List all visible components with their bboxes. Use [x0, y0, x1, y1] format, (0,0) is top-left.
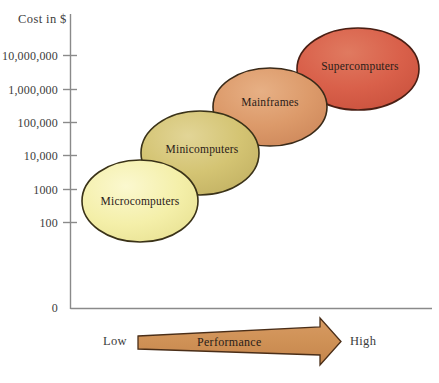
- chart-graphics: [0, 0, 439, 383]
- y-tick-label-1000: 1000: [0, 183, 58, 198]
- y-tick-label-10000000: 10,000,000: [0, 49, 58, 64]
- bubble-label-supercomputers: Supercomputers: [300, 60, 420, 72]
- y-tick-label-10000: 10,000: [0, 149, 58, 164]
- y-tick-label-100: 100: [0, 216, 58, 231]
- bubble-label-mainframes: Mainframes: [214, 96, 326, 108]
- x-axis-performance-label: Performance: [197, 335, 262, 350]
- y-tick-label-100000: 100,000: [0, 116, 58, 131]
- bubble-label-minicomputers: Minicomputers: [144, 143, 260, 155]
- x-axis-high-label: High: [350, 334, 376, 349]
- y-tick-label-0: 0: [0, 301, 58, 316]
- y-tick-label-1000000: 1,000,000: [0, 83, 58, 98]
- cost-performance-chart: Cost in $: [0, 0, 439, 383]
- bubble-label-microcomputers: Microcomputers: [82, 195, 198, 207]
- x-axis-low-label: Low: [103, 334, 127, 349]
